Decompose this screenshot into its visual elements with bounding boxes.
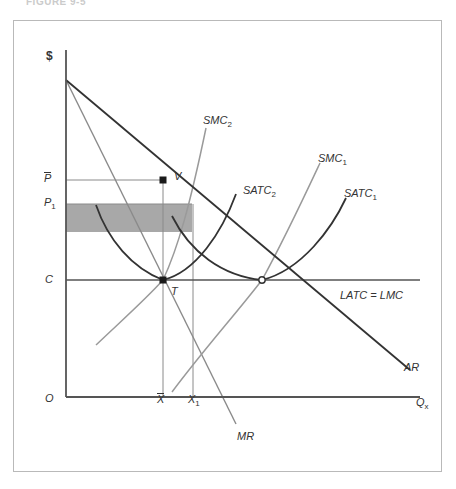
curve-smc2: [96, 128, 206, 345]
curve-label-mr: MR: [237, 430, 254, 442]
curve-label-satc2-sub: 2: [272, 190, 276, 199]
y-tick-p-bar-text: P: [44, 172, 51, 185]
curve-mr: [66, 80, 236, 424]
y-tick-c: C: [45, 273, 53, 285]
curve-label-smc2-text: SMC: [203, 114, 227, 126]
point-label-t: T: [171, 285, 178, 297]
curve-label-smc1: SMC1: [318, 152, 347, 167]
curve-label-satc1: SATC1: [344, 187, 377, 202]
curve-label-smc1-sub: 1: [342, 158, 346, 167]
curve-label-smc1-text: SMC: [318, 152, 342, 164]
origin-label: O: [45, 392, 54, 404]
point-marker-t: [160, 277, 167, 284]
curve-label-satc2: SATC2: [243, 184, 276, 199]
x-tick-x-bar: X: [157, 393, 164, 406]
curve-label-satc2-text: SATC: [243, 184, 272, 196]
x-axis-label-sub: x: [425, 402, 429, 411]
point-label-v: V: [174, 170, 181, 182]
curve-label-smc2: SMC2: [203, 114, 232, 129]
y-tick-p1: P1: [44, 196, 56, 211]
x-axis-label-text: Q: [416, 396, 425, 408]
curve-label-latc-lmc: LATC = LMC: [340, 289, 403, 301]
figure-container: FIGURE 9-5 $ P: [0, 0, 456, 489]
curve-label-satc1-sub: 1: [373, 193, 377, 202]
point-marker-tangency: [259, 277, 265, 283]
curve-satc1: [172, 198, 346, 280]
y-tick-c-text: C: [45, 273, 53, 285]
curve-label-smc2-sub: 2: [227, 120, 231, 129]
x-tick-x1: X1: [188, 393, 200, 408]
economics-diagram-svg: [0, 0, 456, 489]
x-tick-x-bar-text: X: [157, 393, 164, 406]
curve-label-satc1-text: SATC: [344, 187, 373, 199]
y-axis-label: $: [46, 49, 53, 63]
curve-label-ar: AR: [404, 361, 419, 373]
x-axis-label: Qx: [416, 396, 429, 411]
y-tick-p-bar: P: [44, 172, 51, 185]
x-tick-x1-sub: 1: [195, 399, 199, 408]
y-tick-p1-sub: 1: [51, 202, 55, 211]
point-marker-v: [160, 177, 167, 184]
